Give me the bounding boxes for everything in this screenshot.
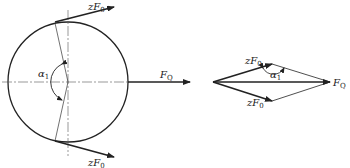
radius-line-bottom (55, 82, 68, 141)
bottom-force-vector (213, 82, 272, 101)
radius-line-top (55, 23, 68, 82)
wrap-angle-label: α1 (38, 68, 49, 81)
top-force-vector-label: zF0 (244, 55, 262, 68)
top-force-vector (213, 64, 272, 82)
pulley-figure: zF0 zF0 FQ α1 (2, 1, 190, 168)
force-parallelogram: zF0 zF0 FQ α1 (213, 55, 346, 110)
bottom-force-vector-label: zF0 (246, 97, 264, 110)
angle-label: α1 (270, 69, 281, 82)
bottom-force-arrow (55, 141, 114, 157)
force-diagram: zF0 zF0 FQ α1 zF0 zF0 FQ α1 (0, 0, 350, 168)
resultant-force-label: FQ (159, 69, 173, 82)
resultant-force-vector-label: FQ (332, 77, 346, 90)
bottom-force-label: zF0 (87, 157, 105, 168)
top-force-arrow (55, 7, 114, 22)
parallelogram-bottom-right-edge (272, 82, 330, 101)
